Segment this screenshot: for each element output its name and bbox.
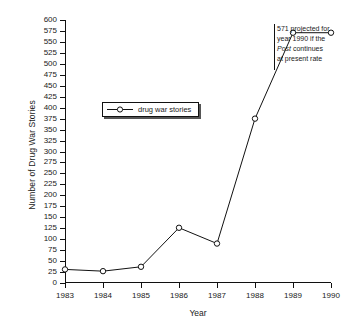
annotation-line-3: Post continues — [277, 44, 355, 54]
x-axis-tick — [255, 283, 256, 288]
x-axis-tick — [293, 283, 294, 288]
x-axis-tick-label: 1990 — [311, 291, 351, 300]
y-axis-tick-label: 425 — [27, 92, 57, 101]
y-axis-tick-label: 500 — [27, 59, 57, 68]
data-point-marker — [138, 264, 143, 269]
x-axis-title: Year — [65, 308, 331, 318]
y-axis-tick-label: 575 — [27, 26, 57, 35]
series-line — [65, 33, 331, 271]
y-axis-tick-label: 325 — [27, 136, 57, 145]
x-axis-tick — [103, 283, 104, 288]
projection-annotation: 571 projected for year 1990 if the Post … — [277, 24, 355, 64]
y-axis-tick-label: 225 — [27, 179, 57, 188]
annotation-line-2: year 1990 if the — [277, 34, 355, 44]
x-axis-tick-label: 1986 — [159, 291, 199, 300]
y-axis-tick-label: 200 — [27, 190, 57, 199]
y-axis-tick-label: 0 — [27, 278, 57, 287]
legend-item-label: drug war stories — [138, 105, 191, 114]
y-axis-tick-label: 475 — [27, 70, 57, 79]
y-axis-tick-label: 75 — [27, 245, 57, 254]
annotation-line-3-rest: continues — [291, 45, 323, 52]
x-axis-tick — [179, 283, 180, 288]
y-axis-tick-label: 25 — [27, 267, 57, 276]
y-axis-tick-label: 250 — [27, 168, 57, 177]
x-axis-tick — [331, 283, 332, 288]
y-axis-tick-label: 50 — [27, 256, 57, 265]
data-point-marker — [100, 268, 105, 273]
annotation-line-4: at present rate — [277, 54, 355, 64]
x-axis-tick — [65, 283, 66, 288]
x-axis-tick-label: 1984 — [83, 291, 123, 300]
annotation-line-1: 571 projected for — [277, 24, 355, 34]
x-axis-tick-label: 1987 — [197, 291, 237, 300]
y-axis-tick-label: 525 — [27, 48, 57, 57]
x-axis-tick-label: 1983 — [45, 291, 85, 300]
data-point-marker — [176, 225, 181, 230]
series-markers — [62, 30, 333, 274]
y-axis-tick-label: 125 — [27, 223, 57, 232]
legend-line-marker-icon — [107, 105, 133, 114]
y-axis-tick-label: 175 — [27, 201, 57, 210]
y-axis-tick-label: 400 — [27, 103, 57, 112]
data-point-marker — [214, 241, 219, 246]
annotation-leader-line — [274, 24, 275, 70]
y-axis-tick-label: 275 — [27, 157, 57, 166]
y-axis-tick-label: 300 — [27, 147, 57, 156]
y-axis-tick-label: 350 — [27, 125, 57, 134]
x-axis-tick-label: 1985 — [121, 291, 161, 300]
drug-war-stories-line-chart: Number of Drug War Stories 0255075100125… — [0, 0, 357, 330]
x-axis-tick-label: 1988 — [235, 291, 275, 300]
y-axis-tick-label: 375 — [27, 114, 57, 123]
x-axis-tick-label: 1989 — [273, 291, 313, 300]
data-point-marker — [252, 116, 257, 121]
annotation-emphasis: Post — [277, 45, 291, 52]
x-axis-tick — [141, 283, 142, 288]
y-axis-tick-label: 150 — [27, 212, 57, 221]
data-point-marker — [62, 267, 67, 272]
y-axis-tick-label: 100 — [27, 234, 57, 243]
y-axis-tick-label: 450 — [27, 81, 57, 90]
x-axis-tick — [217, 283, 218, 288]
y-axis-tick-label: 600 — [27, 15, 57, 24]
y-axis-tick-label: 550 — [27, 37, 57, 46]
chart-legend: drug war stories — [102, 102, 199, 117]
